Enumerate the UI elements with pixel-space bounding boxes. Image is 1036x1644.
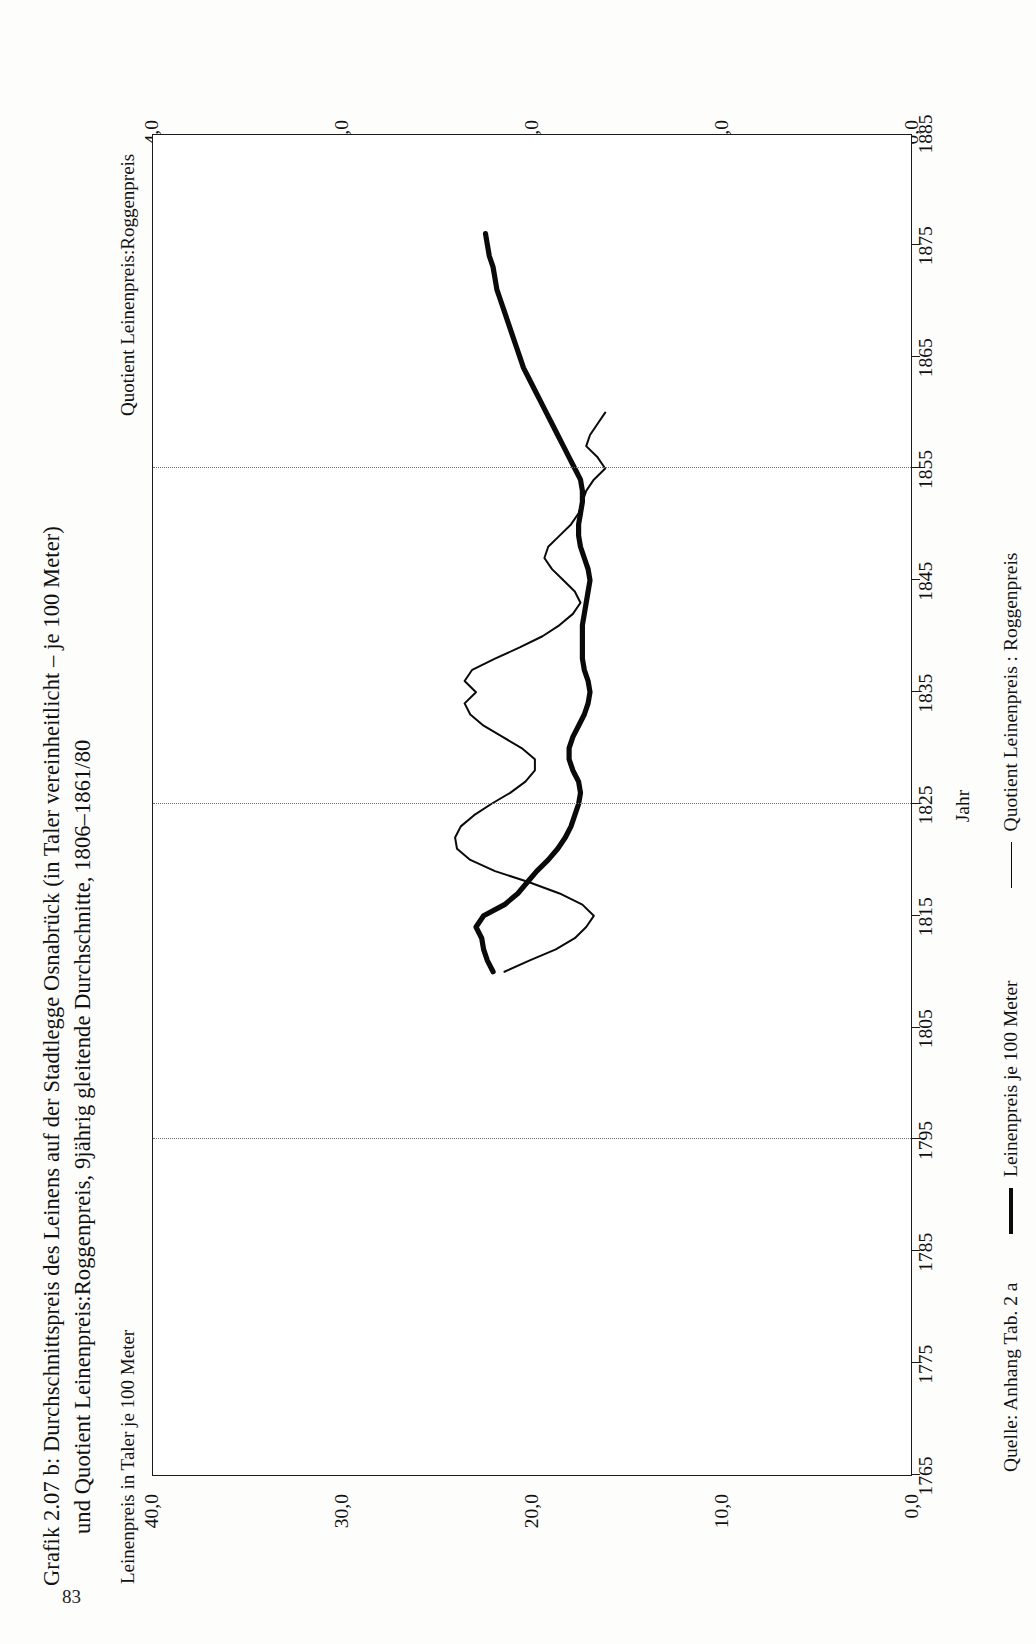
ytick-label-left-3: 30,0 bbox=[331, 1494, 353, 1528]
series-line-leinenpreis bbox=[476, 234, 590, 972]
gridline-1855 bbox=[153, 468, 911, 469]
source-note: Quelle: Anhang Tab. 2 a bbox=[1000, 1283, 1022, 1472]
legend-item-quotient: Quotient Leinenpreis : Roggenpreis bbox=[1000, 553, 1022, 889]
ytick-label-left-2: 20,0 bbox=[521, 1494, 543, 1528]
ytick-label-left-0: 0,0 bbox=[901, 1494, 923, 1518]
xtick-label-1845: 1845 bbox=[915, 562, 937, 601]
xtick-label-1835: 1835 bbox=[915, 674, 937, 713]
figure-caption-line-2: und Quotient Leinenpreis:Roggenpreis, 9j… bbox=[67, 66, 98, 1586]
xtick-label-1885: 1885 bbox=[915, 115, 937, 154]
xtick-label-1785: 1785 bbox=[915, 1233, 937, 1272]
xtick-label-1855: 1855 bbox=[915, 450, 937, 489]
legend-swatch-thick-line-icon bbox=[1009, 1188, 1013, 1234]
left-axis-title: Leinenpreis in Taler je 100 Meter bbox=[117, 1330, 139, 1584]
xtick-label-1875: 1875 bbox=[915, 226, 937, 265]
figure-caption-line-1: Grafik 2.07 b: Durchschnittspreis des Le… bbox=[36, 66, 67, 1586]
plot-area bbox=[152, 134, 912, 1476]
figure-caption: Grafik 2.07 b: Durchschnittspreis des Le… bbox=[36, 66, 98, 1586]
legend-swatch-thin-line-icon bbox=[1011, 842, 1012, 888]
xtick-label-1805: 1805 bbox=[915, 1009, 937, 1048]
series-canvas bbox=[153, 133, 913, 1475]
x-axis-title: Jahr bbox=[952, 790, 974, 823]
legend-label-leinenpreis: Leinenpreis je 100 Meter bbox=[1000, 980, 1022, 1177]
legend-label-quotient: Quotient Leinenpreis : Roggenpreis bbox=[1000, 553, 1022, 832]
xtick-label-1815: 1815 bbox=[915, 897, 937, 936]
ytick-label-left-4: 40,0 bbox=[141, 1494, 163, 1528]
gridline-1825 bbox=[153, 803, 911, 804]
chart-legend: Leinenpreis je 100 Meter Quotient Leinen… bbox=[1000, 553, 1022, 1234]
ytick-label-left-1: 10,0 bbox=[711, 1494, 733, 1528]
xtick-label-1865: 1865 bbox=[915, 338, 937, 377]
page-number: 83 bbox=[62, 1586, 81, 1608]
gridline-1795 bbox=[153, 1139, 911, 1140]
legend-item-leinenpreis: Leinenpreis je 100 Meter bbox=[1000, 980, 1022, 1234]
right-axis-title: Quotient Leinenpreis:Roggenpreis bbox=[117, 154, 139, 416]
xtick-label-1825: 1825 bbox=[915, 786, 937, 825]
xtick-label-1775: 1775 bbox=[915, 1345, 937, 1384]
xtick-label-1765: 1765 bbox=[915, 1457, 937, 1496]
xtick-label-1795: 1795 bbox=[915, 1121, 937, 1160]
